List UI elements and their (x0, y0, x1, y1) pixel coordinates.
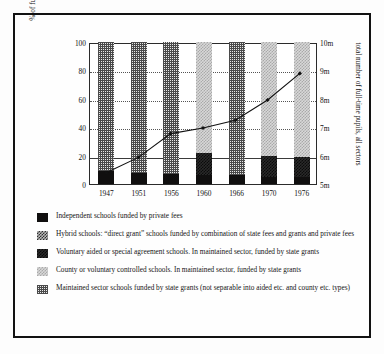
figure-frame: % of full-time pupils by type of school … (13, 13, 371, 338)
legend-label-maintained: Maintained sector schools funded by stat… (56, 283, 350, 293)
y-tick-right-10m: 10m (320, 40, 333, 47)
legend-label-independent: Independent schools funded by private fe… (56, 211, 183, 221)
legend-item-aided: Voluntary aided or special agreement sch… (37, 247, 357, 258)
maintained-swatch (37, 285, 48, 294)
legend-label-aided: Voluntary aided or special agreement sch… (56, 247, 319, 257)
y-axis-left-title-text: % of full-time pupils by type of school (29, 0, 37, 33)
y-axis-right-title: total number of full-time pupils, all se… (348, 33, 362, 175)
y-tick-right-7m: 7m (320, 125, 329, 132)
chart-legend: Independent schools funded by private fe… (37, 211, 357, 301)
x-tick-1976: 1976 (294, 189, 309, 198)
line-series-overlay (90, 44, 316, 184)
y-tick-left-40: 40 (79, 125, 86, 132)
county-swatch (37, 267, 48, 276)
x-tick-1947: 1947 (99, 189, 114, 198)
legend-item-independent: Independent schools funded by private fe… (37, 211, 357, 222)
y-tick-left-80: 80 (79, 69, 86, 76)
y-tick-left-20: 20 (79, 154, 86, 161)
independent-swatch (37, 213, 48, 222)
legend-item-hybrid: Hybrid schools: “direct grant” schools f… (37, 229, 357, 240)
y-tick-right-5m: 5m (320, 182, 329, 189)
line-marker-1947 (104, 171, 108, 175)
y-axis-left-title: % of full-time pupils by type of school (29, 0, 43, 33)
x-tick-1956: 1956 (164, 189, 179, 198)
y-tick-left-100: 100 (75, 40, 86, 47)
y-axis-right-title-text: total number of full-time pupils, all se… (354, 33, 362, 175)
legend-item-county: County or voluntary controlled schools. … (37, 265, 357, 276)
chart-area: % of full-time pupils by type of school … (15, 15, 373, 200)
legend-label-county: County or voluntary controlled schools. … (56, 265, 301, 275)
y-tick-right-6m: 6m (320, 154, 329, 161)
total-pupils-line (106, 73, 300, 172)
y-tick-right-9m: 9m (320, 69, 329, 76)
y-tick-left-60: 60 (79, 97, 86, 104)
legend-label-hybrid: Hybrid schools: “direct grant” schools f… (56, 229, 354, 239)
x-tick-1970: 1970 (262, 189, 277, 198)
plot-area: 020406080100 5m6m7m8m9m10m 1947195119561… (89, 43, 317, 185)
x-tick-1966: 1966 (229, 189, 244, 198)
line-marker-1960 (201, 126, 205, 130)
y-tick-right-8m: 8m (320, 97, 329, 104)
hybrid-swatch (37, 231, 48, 240)
y-tick-left-0: 0 (82, 182, 86, 189)
chart-page: % of full-time pupils by type of school … (0, 0, 384, 354)
aided-swatch (37, 249, 48, 258)
x-tick-1960: 1960 (197, 189, 212, 198)
x-tick-1951: 1951 (131, 189, 146, 198)
legend-item-maintained: Maintained sector schools funded by stat… (37, 283, 357, 294)
